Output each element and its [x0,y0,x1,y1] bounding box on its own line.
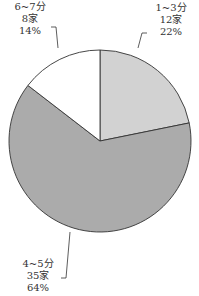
label-1-3: 1~3分 12家 22% [151,2,191,38]
label-4-5: 4~5分 35家 64% [18,258,58,294]
label-6-7: 6~7分 8家 14% [10,1,50,37]
pie-chart [0,0,199,296]
